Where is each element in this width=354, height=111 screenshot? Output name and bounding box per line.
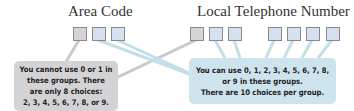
restricted-digits-callout: You cannot use 0 or 1 in these groups. T…: [14, 61, 118, 111]
callout-line: are only 8 choices:: [14, 86, 118, 97]
local-digit-6: [306, 27, 320, 41]
area-code-digit-2: [92, 27, 106, 41]
local-digit-7: [326, 27, 340, 41]
callout-line: You can use 0, 1, 2, 3, 4, 5, 6, 7, 8,: [189, 65, 336, 76]
local-digit-5: [287, 27, 301, 41]
callout-line: or 9 in these groups.: [189, 76, 336, 87]
area-code-digit-1: [73, 27, 87, 41]
area-code-digit-3: [111, 27, 125, 41]
callout-line: 2, 3, 4, 5, 6, 7, 8, or 9.: [14, 97, 118, 108]
unrestricted-digits-callout: You can use 0, 1, 2, 3, 4, 5, 6, 7, 8, o…: [189, 58, 336, 104]
callout-line: There are 10 choices per group.: [189, 87, 336, 98]
callout-line: these groups. There: [14, 75, 118, 86]
local-digit-4: [268, 27, 282, 41]
local-digit-1: [190, 27, 204, 41]
area-code-label: Area Code: [68, 3, 133, 20]
local-digit-3: [228, 27, 242, 41]
local-number-label: Local Telephone Number: [197, 3, 350, 20]
local-digit-2: [209, 27, 223, 41]
callout-line: You cannot use 0 or 1 in: [14, 64, 118, 75]
